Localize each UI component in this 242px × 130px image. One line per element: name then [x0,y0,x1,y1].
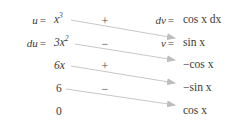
integral-entry-2: sin x [183,37,205,49]
derivative-entry-3: 6x [54,60,65,72]
derivative-entry-3-base: 6x [54,59,65,71]
label-du-row: du= [1,38,46,49]
equals-sign-u: = [38,14,46,26]
arrow-row-4 [66,89,175,105]
label-u: u [32,14,38,26]
sign-3: + [97,60,113,72]
label-dv: dv [155,14,165,26]
derivative-entry-2: 3x2 [54,37,69,49]
integral-entry-4: −sin x [183,82,212,94]
equals-sign-v: = [166,37,174,49]
derivative-entry-2-base: 3x [54,36,65,48]
sign-4: − [97,83,113,95]
integral-entry-5: cos x [183,105,207,117]
label-dv-row: dv= [138,15,174,26]
sign-2: − [97,38,113,50]
label-v-row: v= [150,38,174,49]
derivative-entry-5-base: 0 [56,105,62,117]
integration-by-parts-diagram: u= x3 + dv= cos x dx du= 3x2 − v= sin x … [0,0,242,130]
sign-1: + [97,15,113,27]
integral-entry-3: −cos x [183,59,213,71]
equals-sign-du: = [38,37,46,49]
derivative-entry-1: x3 [54,14,63,26]
derivative-entry-2-exponent: 2 [65,34,69,43]
label-du: du [27,37,38,49]
integral-entry-1: cos x dx [183,14,221,26]
label-u-row: u= [8,15,46,26]
derivative-entry-4-base: 6 [56,82,62,94]
equals-sign-dv: = [166,14,174,26]
derivative-entry-4: 6 [56,83,62,95]
derivative-entry-1-exponent: 3 [59,11,63,20]
arrow-row-3 [71,66,175,83]
derivative-entry-5: 0 [56,106,62,118]
